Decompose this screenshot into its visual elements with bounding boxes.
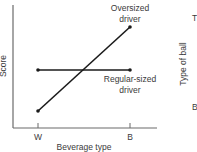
point-regular-w — [36, 68, 40, 72]
x-axis-title: Beverage type — [57, 142, 112, 152]
label-oversized-2: driver — [119, 14, 140, 24]
adjacent-tick-top: T — [192, 13, 197, 23]
point-oversized-b — [128, 25, 132, 29]
label-regular-1: Regular-sized — [104, 74, 157, 84]
adjacent-y-axis-title: Type of ball — [178, 42, 188, 86]
adjacent-tick-bottom: B — [192, 102, 197, 112]
label-oversized-1: Oversized — [111, 3, 150, 13]
x-tick-label-w: W — [34, 132, 42, 142]
interaction-plot: Oversized driver Regular-sized driver W … — [0, 0, 197, 152]
series-oversized-driver — [38, 27, 130, 111]
y-axis-title: Score — [0, 55, 8, 77]
x-tick-label-b: B — [127, 132, 133, 142]
point-regular-b — [128, 68, 132, 72]
label-regular-2: driver — [119, 85, 140, 95]
point-oversized-w — [36, 109, 40, 113]
